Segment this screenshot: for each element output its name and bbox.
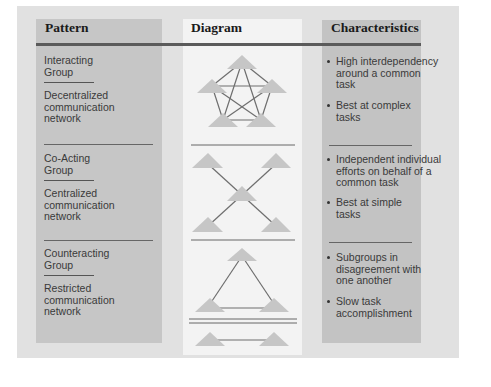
network-diagrams (183, 46, 302, 346)
row3-char1-line3: one another (336, 275, 421, 287)
row3-group-line1: Counteracting (44, 248, 109, 260)
row2-char1: Independent individual efforts on behalf… (326, 154, 441, 189)
centralized-nodes (192, 153, 291, 232)
row3-network: Restricted communication network (44, 283, 115, 318)
row1-network: Decentralized communication network (44, 90, 115, 125)
row1-group-line1: Interacting (44, 55, 93, 67)
row1-network-line3: network (44, 113, 115, 125)
row2-char2-line1: Best at simple (336, 197, 402, 209)
row3-char1-line1: Subgroups in (336, 252, 421, 264)
row2-network-line1: Centralized (44, 188, 115, 200)
diagram-header: Diagram (191, 20, 242, 36)
row2-char1-line1: Independent individual (336, 154, 441, 166)
row2-group-line2: Group (44, 165, 90, 177)
row1-network-line1: Decentralized (44, 90, 115, 102)
row-divider-left-1 (44, 144, 153, 145)
row1-short-rule (44, 82, 94, 83)
row2-char1-line3: common task (336, 177, 441, 189)
row3-char1: Subgroups in disagreement with one anoth… (326, 252, 421, 287)
row3-group-line2: Group (44, 260, 109, 272)
row1-char1-line1: High interdependency (336, 56, 438, 68)
pattern-header: Pattern (45, 20, 88, 36)
row-divider-right-2 (329, 242, 412, 243)
row3-char2-line1: Slow task (336, 296, 412, 308)
row3-network-line1: Restricted (44, 283, 115, 295)
characteristics-header: Characteristics (331, 20, 419, 36)
row2-short-rule (44, 180, 94, 181)
row2-group: Co-Acting Group (44, 153, 90, 176)
row3-char2: Slow task accomplishment (326, 296, 412, 319)
row1-group-line2: Group (44, 67, 93, 79)
row3-network-line3: network (44, 306, 115, 318)
row2-char2-line2: tasks (336, 209, 402, 221)
row1-group: Interacting Group (44, 55, 93, 78)
row3-char2-line2: accomplishment (336, 308, 412, 320)
row2-char2: Best at simple tasks (326, 197, 402, 220)
row2-group-line1: Co-Acting (44, 153, 90, 165)
row1-char1-line3: task (336, 79, 438, 91)
row-divider-right-1 (329, 145, 412, 146)
row3-short-rule (44, 275, 94, 276)
row-divider-left-2 (44, 240, 153, 241)
row1-char1: High interdependency around a common tas… (326, 56, 438, 91)
row2-network-line3: network (44, 211, 115, 223)
row2-network: Centralized communication network (44, 188, 115, 223)
row3-group: Counteracting Group (44, 248, 109, 271)
restricted-network-icon (210, 256, 274, 340)
row1-char2-line1: Best at complex (336, 100, 411, 112)
restricted-nodes (195, 248, 289, 346)
pentagon-nodes (197, 55, 287, 127)
row1-char2: Best at complex tasks (326, 100, 411, 123)
row1-char2-line2: tasks (336, 112, 411, 124)
